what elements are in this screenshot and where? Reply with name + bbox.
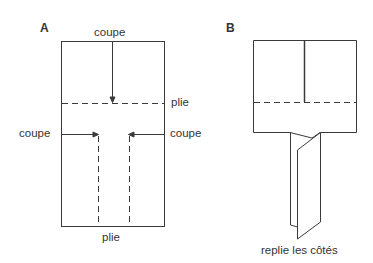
- cut-arrow-top-head: [110, 97, 115, 103]
- cut-arrow-left-head: [93, 132, 99, 137]
- label-left-cut: coupe: [19, 128, 50, 140]
- label-top-cut: coupe: [94, 27, 125, 39]
- label-bottom-fold: plie: [102, 232, 120, 244]
- panel-label-a: A: [40, 22, 49, 34]
- label-caption-fold-sides: replie les côtés: [261, 245, 338, 257]
- label-right-cut: coupe: [170, 128, 201, 140]
- label-fold-right: plie: [171, 97, 189, 109]
- folded-strip-bottom-back: [291, 225, 298, 227]
- folded-flap: [298, 133, 321, 240]
- panel-label-b: B: [226, 22, 235, 34]
